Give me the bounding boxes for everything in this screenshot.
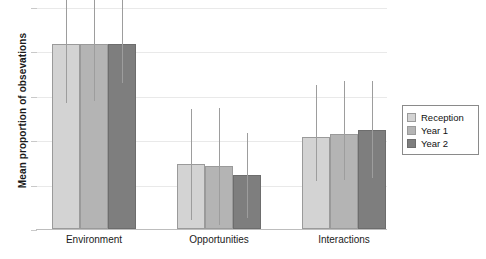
error-bar	[66, 0, 67, 103]
y-axis-tick	[31, 97, 37, 98]
legend-label: Reception	[421, 112, 464, 123]
x-axis-line	[36, 229, 387, 230]
y-axis-tick	[31, 141, 37, 142]
error-bar	[247, 133, 248, 218]
y-axis-tick	[31, 8, 37, 9]
x-axis-tick-label: Interactions	[274, 234, 414, 245]
x-axis-tick-label: Environment	[24, 234, 164, 245]
legend-swatch-icon	[407, 126, 416, 135]
legend-label: Year 1	[421, 125, 448, 136]
error-bar	[94, 0, 95, 101]
plot-area	[36, 8, 387, 230]
bar-group	[302, 8, 386, 229]
error-bar	[219, 108, 220, 225]
legend-item-year-2[interactable]: Year 2	[407, 137, 474, 149]
y-axis-title: Mean proportion of obsevations	[17, 21, 28, 201]
legend-item-reception[interactable]: Reception	[407, 111, 474, 123]
bar-group	[177, 8, 261, 229]
y-axis-tick	[31, 230, 37, 231]
bar-chart: Mean proportion of obsevations Reception…	[0, 0, 486, 259]
error-bar	[122, 0, 123, 83]
error-bar	[344, 81, 345, 180]
x-axis-tick-label: Opportunities	[149, 234, 289, 245]
error-bar	[372, 81, 373, 178]
chart-legend: Reception Year 1 Year 2	[402, 105, 479, 155]
y-axis-tick	[31, 52, 37, 53]
legend-swatch-icon	[407, 139, 416, 148]
legend-item-year-1[interactable]: Year 1	[407, 124, 474, 136]
legend-label: Year 2	[421, 138, 448, 149]
legend-swatch-icon	[407, 113, 416, 122]
error-bar	[316, 85, 317, 181]
error-bar	[191, 109, 192, 220]
bar-group	[52, 8, 136, 229]
y-axis-tick	[31, 186, 37, 187]
